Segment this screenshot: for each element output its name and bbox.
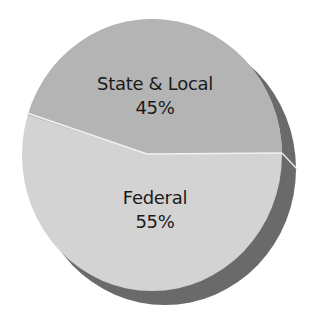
- label-state-local-value: 45%: [55, 97, 255, 119]
- label-state-local-name: State & Local: [55, 73, 255, 95]
- label-federal-name: Federal: [55, 187, 255, 209]
- pie-chart: [0, 0, 311, 315]
- label-federal-value: 55%: [55, 211, 255, 233]
